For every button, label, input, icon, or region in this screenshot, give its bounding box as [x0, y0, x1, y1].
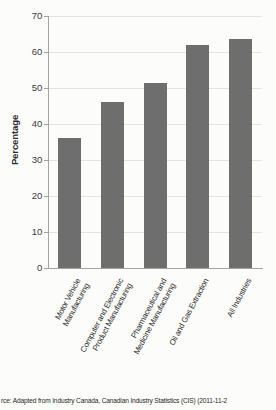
y-axis-line [48, 16, 49, 269]
y-tick-70 [44, 16, 48, 17]
y-tick-40 [44, 124, 48, 125]
y-tick-label-30: 30 [20, 155, 42, 165]
x-category-label-5: All Industries [226, 277, 254, 319]
x-axis-line [48, 268, 263, 269]
y-tick-20 [44, 196, 48, 197]
y-tick-label-70: 70 [20, 11, 42, 21]
y-tick-10 [44, 232, 48, 233]
y-tick-30 [44, 160, 48, 161]
y-tick-label-20: 20 [20, 191, 42, 201]
bar-5 [229, 39, 252, 268]
y-tick-50 [44, 88, 48, 89]
bar-chart-figure: Percentage 010203040506070 Motor Vehicle… [0, 0, 276, 410]
bar-2 [101, 102, 124, 268]
y-tick-label-10: 10 [20, 227, 42, 237]
y-tick-label-0: 0 [20, 263, 42, 273]
x-category-label-1: Motor Vehicle Manufacturing [52, 277, 91, 328]
bar-4 [186, 45, 209, 268]
y-tick-label-40: 40 [20, 119, 42, 129]
y-tick-label-60: 60 [20, 47, 42, 57]
source-note: rce: Adapted from Industry Canada, Canad… [1, 397, 276, 405]
y-tick-60 [44, 52, 48, 53]
gridline-70 [48, 16, 262, 17]
y-tick-0 [44, 268, 48, 269]
y-tick-label-50: 50 [20, 83, 42, 93]
bar-1 [58, 138, 81, 268]
bar-3 [144, 83, 167, 268]
plot-area [48, 16, 262, 268]
y-axis-title: Percentage [9, 115, 20, 165]
